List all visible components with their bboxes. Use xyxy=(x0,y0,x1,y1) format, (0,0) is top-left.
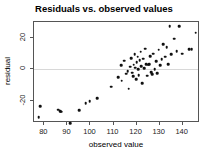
chart-title: Residuals vs. observed values xyxy=(0,3,208,14)
data-point xyxy=(139,50,142,53)
y-tick-mark xyxy=(30,37,33,38)
x-tick-mark xyxy=(66,122,67,125)
data-point xyxy=(120,64,123,67)
data-point xyxy=(143,67,146,70)
data-point xyxy=(121,80,124,83)
y-tick-label: 0 xyxy=(18,66,27,70)
data-point xyxy=(139,59,142,62)
data-point xyxy=(60,110,63,113)
x-tick-mark xyxy=(113,122,114,125)
data-point xyxy=(132,75,135,78)
data-point xyxy=(167,63,170,66)
data-point xyxy=(165,46,168,49)
data-point xyxy=(136,55,139,58)
data-point xyxy=(157,48,160,51)
y-tick-mark xyxy=(30,68,33,69)
data-point xyxy=(127,87,130,90)
x-tick-label: 110 xyxy=(107,127,119,136)
data-point xyxy=(125,72,128,75)
data-point xyxy=(181,53,184,56)
x-tick-label: 90 xyxy=(62,127,70,136)
data-point xyxy=(129,66,132,69)
x-tick-label: 100 xyxy=(83,127,96,136)
data-point xyxy=(194,31,197,34)
data-point xyxy=(162,43,165,46)
y-tick-mark xyxy=(30,100,33,101)
data-point xyxy=(69,122,72,125)
data-point xyxy=(170,53,173,56)
data-point xyxy=(144,47,147,50)
y-tick-label: -20 xyxy=(18,94,27,105)
data-point xyxy=(78,109,81,112)
data-point xyxy=(131,71,134,74)
x-tick-mark xyxy=(89,122,90,125)
data-point xyxy=(146,74,149,77)
y-tick-label: 20 xyxy=(18,33,27,41)
data-point xyxy=(152,52,155,55)
data-point xyxy=(96,97,99,100)
data-point xyxy=(110,85,113,88)
data-point xyxy=(173,37,176,40)
data-point xyxy=(141,82,144,85)
data-point xyxy=(126,70,129,73)
x-tick-label: 80 xyxy=(39,127,47,136)
plot-area xyxy=(33,21,199,122)
data-point xyxy=(84,102,87,105)
data-point xyxy=(190,48,193,51)
x-tick-mark xyxy=(159,122,160,125)
data-point xyxy=(142,57,145,60)
chart-figure: Residuals vs. observed values 8090100110… xyxy=(0,0,208,155)
data-point xyxy=(160,58,163,61)
data-point xyxy=(149,55,152,58)
data-point xyxy=(38,116,41,119)
x-axis-title: observed value xyxy=(33,140,199,149)
x-tick-mark xyxy=(136,122,137,125)
x-tick-label: 140 xyxy=(175,127,188,136)
data-point xyxy=(154,68,157,71)
y-axis-title: residual xyxy=(3,57,12,85)
data-point xyxy=(135,78,138,81)
data-point xyxy=(148,63,151,66)
x-tick-label: 120 xyxy=(129,127,142,136)
data-point xyxy=(151,73,154,76)
data-point xyxy=(164,55,167,58)
x-tick-label: 130 xyxy=(152,127,165,136)
data-point xyxy=(168,25,171,28)
x-tick-mark xyxy=(182,122,183,125)
data-point xyxy=(159,64,162,67)
data-point xyxy=(156,72,159,75)
x-tick-mark xyxy=(43,122,44,125)
data-point xyxy=(136,61,139,64)
data-point xyxy=(130,57,133,60)
data-point xyxy=(155,60,158,63)
data-point xyxy=(175,50,178,53)
data-point xyxy=(138,74,141,77)
data-point xyxy=(39,105,42,108)
data-point xyxy=(123,60,126,63)
data-point xyxy=(137,68,140,71)
data-point xyxy=(88,100,91,103)
data-point xyxy=(117,76,120,79)
zero-reference-line xyxy=(34,69,198,70)
data-point xyxy=(178,25,181,28)
